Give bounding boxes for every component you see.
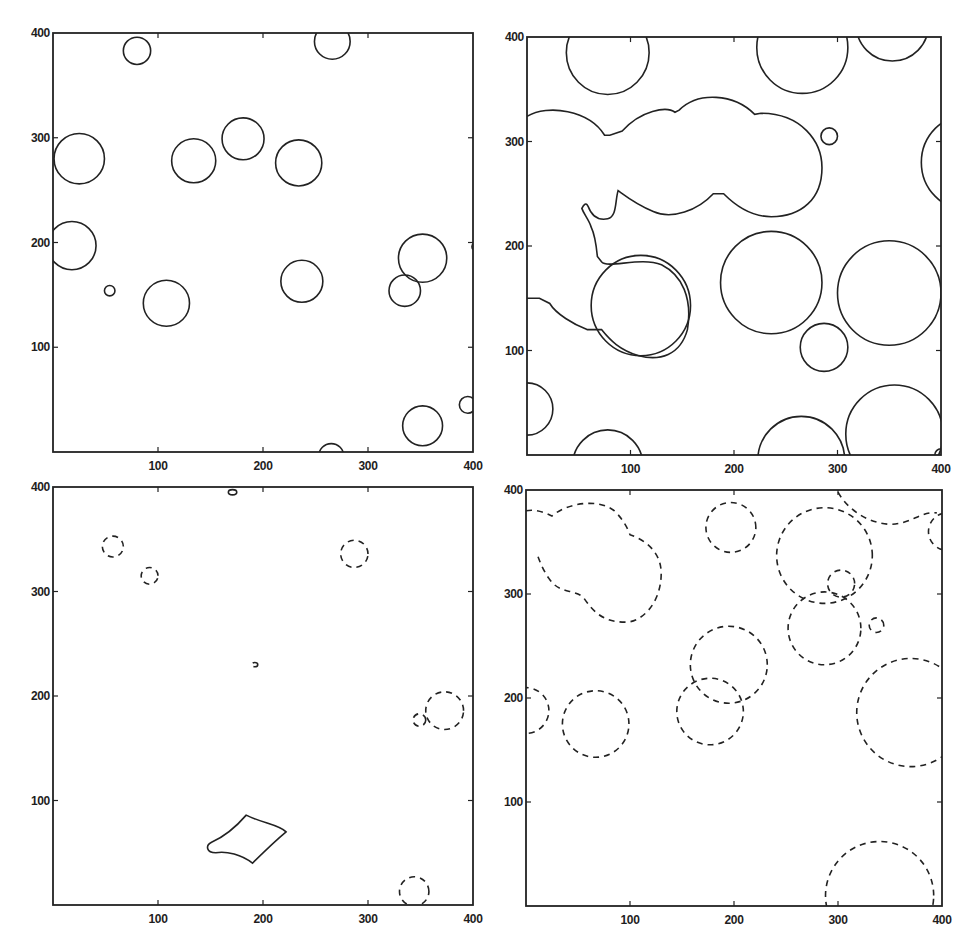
y-tick-label: 400 [16, 27, 50, 39]
y-tick-label: 400 [489, 484, 523, 496]
y-tick-label: 200 [16, 690, 50, 702]
y-tick-label: 200 [490, 240, 524, 252]
contour-ellipse [251, 663, 257, 667]
contour-circle [821, 128, 838, 145]
contour-circle [403, 406, 443, 446]
contour-circle [314, 24, 350, 60]
panel-top-right: 100200300400100200300400 [487, 0, 975, 470]
plot-area [53, 487, 473, 905]
contour-circle [721, 231, 822, 333]
contour-circle [54, 134, 104, 184]
y-tick-label: 100 [490, 345, 524, 357]
axes-frame [53, 33, 473, 452]
axes-frame [53, 487, 473, 905]
contour-circle [341, 540, 368, 567]
contour-circle [123, 37, 150, 64]
x-tick-label: 300 [348, 913, 388, 925]
contour-circle [706, 502, 756, 552]
contour-circle [102, 536, 123, 557]
contour-circle [800, 323, 848, 371]
panel-bottom-left: 100200300400100200300400 [0, 470, 487, 943]
contour-circle [869, 618, 884, 633]
contour-circle [281, 260, 323, 302]
contour-circle [838, 241, 942, 346]
contour-circle [690, 626, 767, 703]
contour-circle [562, 691, 629, 758]
x-tick-label: 100 [138, 913, 178, 925]
contour-circle [921, 114, 975, 210]
y-tick-label: 400 [16, 481, 50, 493]
contour-circle [400, 877, 429, 906]
contour-circle [591, 255, 690, 355]
contour-circle [566, 11, 649, 95]
y-tick-label: 100 [16, 341, 50, 353]
plot-area [527, 37, 941, 455]
contour-diamond-blob [208, 815, 287, 863]
y-tick-label: 200 [16, 237, 50, 249]
contour-circle [172, 139, 216, 183]
contour-circle [413, 714, 426, 727]
contour-merged-blob [526, 503, 661, 622]
contour-circle [389, 275, 421, 306]
panel-top-left: 100200300400100200300400 [0, 0, 487, 470]
contour-circle [856, 0, 928, 61]
contour-merged-blob [527, 97, 822, 357]
x-tick-label: 100 [610, 914, 650, 926]
x-tick-label: 300 [818, 914, 858, 926]
contour-circle [141, 567, 158, 584]
y-tick-label: 300 [16, 132, 50, 144]
contour-top-right-arc [838, 492, 937, 524]
contour-circle [222, 118, 264, 160]
y-tick-label: 100 [489, 796, 523, 808]
contour-circle [426, 692, 464, 730]
contour-circle [677, 678, 744, 745]
contour-circle [319, 444, 344, 469]
contour-circle [143, 280, 189, 326]
axes-frame [527, 37, 941, 455]
contour-circle [104, 285, 115, 295]
contour-circle [757, 1, 848, 93]
x-tick-label: 200 [714, 914, 754, 926]
contour-circle [826, 842, 934, 943]
contour-circle [857, 658, 965, 766]
y-tick-label: 300 [490, 136, 524, 148]
y-tick-label: 100 [16, 795, 50, 807]
contour-ellipse [228, 490, 236, 495]
contour-circle [928, 513, 965, 550]
x-tick-label: 200 [243, 913, 283, 925]
x-tick-label: 400 [922, 914, 962, 926]
contour-circle [48, 222, 96, 270]
y-tick-label: 300 [489, 588, 523, 600]
panel-bottom-right: 100200300400100200300400 [487, 470, 975, 943]
plot-area [53, 33, 473, 452]
plot-area [526, 490, 942, 906]
y-tick-label: 400 [490, 31, 524, 43]
axes-frame [526, 490, 942, 906]
y-tick-label: 300 [16, 586, 50, 598]
contour-circle [777, 508, 873, 604]
contour-circle [276, 140, 322, 186]
y-tick-label: 200 [489, 692, 523, 704]
